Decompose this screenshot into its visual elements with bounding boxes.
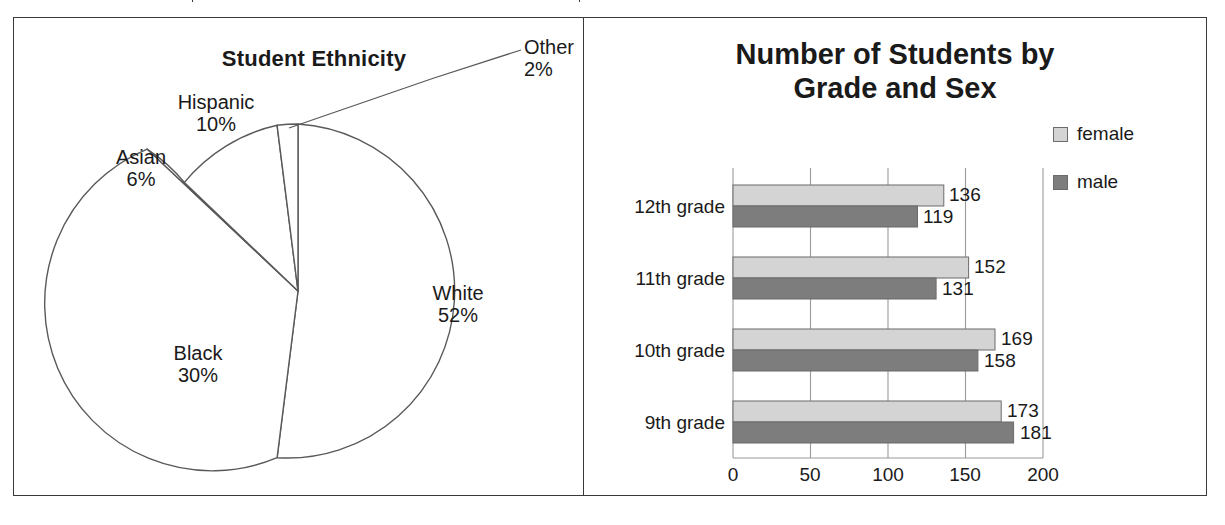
bar-value-g12-male: 119: [923, 206, 953, 228]
bar-value-g12-female: 136: [949, 184, 981, 206]
pie-label-hispanic-pct: 10%: [146, 113, 286, 135]
panel-divider: [583, 17, 584, 496]
pie-label-asian: Asian 6%: [86, 146, 196, 191]
pie-label-black-pct: 30%: [138, 364, 258, 386]
pie-chart-graphic: [14, 18, 583, 495]
bar-xtick-100: 100: [853, 464, 923, 486]
bar-value-g11-male: 131: [942, 278, 974, 300]
other-leader-line: [289, 50, 521, 128]
pie-label-hispanic: Hispanic 10%: [146, 91, 286, 136]
bar-xtick-150: 150: [930, 464, 1000, 486]
bar-value-g11-female: 152: [974, 256, 1006, 278]
bar-g11-female: [733, 257, 969, 278]
pie-label-black-name: Black: [174, 342, 223, 364]
bar-g10-male: [733, 350, 978, 371]
top-stub-box: [192, 0, 580, 2]
bar-g11-male: [733, 278, 936, 299]
legend-label-male: male: [1077, 171, 1118, 193]
legend-item-female: female: [1053, 123, 1193, 145]
pie-label-asian-name: Asian: [116, 146, 166, 168]
bar-g12-female: [733, 185, 944, 206]
pie-label-asian-pct: 6%: [86, 168, 196, 190]
legend-label-female: female: [1077, 123, 1134, 145]
bar-xtick-200: 200: [1008, 464, 1078, 486]
bar-value-g9-male: 181: [1020, 422, 1052, 444]
pie-label-white-name: White: [432, 282, 483, 304]
legend-swatch-male-icon: [1053, 175, 1068, 190]
figure-root: Student Ethnicity Other 2%: [0, 0, 1225, 525]
pie-label-other: Other 2%: [524, 36, 574, 81]
bar-category-label-11th: 11th grade: [585, 268, 725, 290]
pie-label-other-name: Other: [524, 36, 574, 58]
bar-category-label-9th: 9th grade: [585, 412, 725, 434]
pie-label-other-pct: 2%: [524, 58, 574, 80]
bar-category-label-12th: 12th grade: [585, 196, 725, 218]
bar-value-g10-male: 158: [984, 350, 1016, 372]
bar-g9-female: [733, 401, 1001, 422]
bar-xtick-0: 0: [698, 464, 768, 486]
bar-g9-male: [733, 422, 1014, 443]
bar-xtick-50: 50: [775, 464, 845, 486]
pie-label-black: Black 30%: [138, 342, 258, 387]
bar-g12-male: [733, 206, 918, 227]
pie-label-hispanic-name: Hispanic: [178, 91, 255, 113]
legend-swatch-female-icon: [1053, 127, 1068, 142]
bar-value-g9-female: 173: [1007, 400, 1039, 422]
bar-g10-female: [733, 329, 995, 350]
pie-chart-panel: Student Ethnicity Other 2%: [14, 18, 583, 495]
pie-label-white: White 52%: [403, 282, 513, 327]
bar-value-g10-female: 169: [1001, 328, 1033, 350]
bar-chart-panel: Number of Students by Grade and Sex: [585, 18, 1206, 495]
bar-chart-legend: female male: [1053, 123, 1193, 219]
bar-category-label-10th: 10th grade: [585, 340, 725, 362]
pie-label-white-pct: 52%: [403, 304, 513, 326]
legend-item-male: male: [1053, 171, 1193, 193]
